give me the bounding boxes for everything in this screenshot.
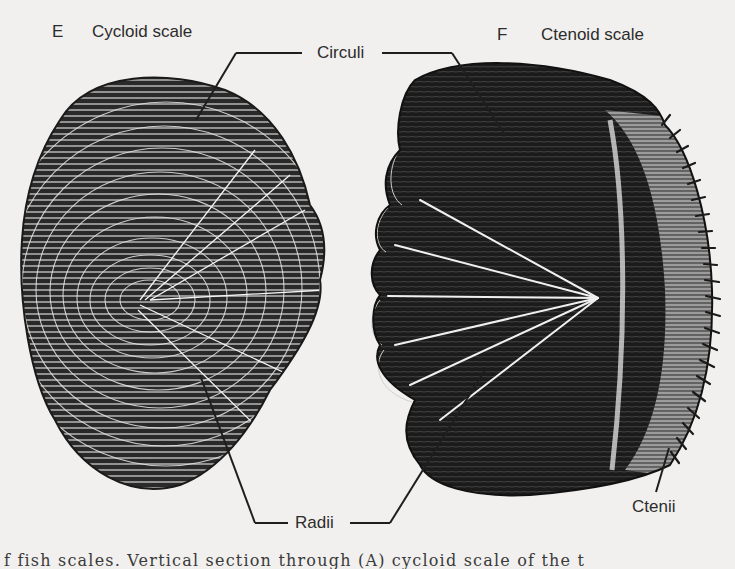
panel-letter-e: E xyxy=(52,23,63,40)
panel-title-cycloid: Cycloid scale xyxy=(92,23,192,40)
panel-letter-f: F xyxy=(497,26,507,43)
circuli-label: Circuli xyxy=(317,44,364,61)
ctenii-label: Ctenii xyxy=(632,498,675,515)
radii-label: Radii xyxy=(295,514,334,531)
cycloid-scale-illustration xyxy=(0,78,338,489)
ctenoid-scale-illustration xyxy=(372,63,730,495)
panel-title-ctenoid: Ctenoid scale xyxy=(541,26,644,43)
scale-illustrations xyxy=(0,0,735,569)
fish-scales-figure: E Cycloid scale F Ctenoid scale Circuli … xyxy=(0,0,735,569)
figure-caption-fragment: f fish scales. Vertical section through … xyxy=(4,553,585,569)
